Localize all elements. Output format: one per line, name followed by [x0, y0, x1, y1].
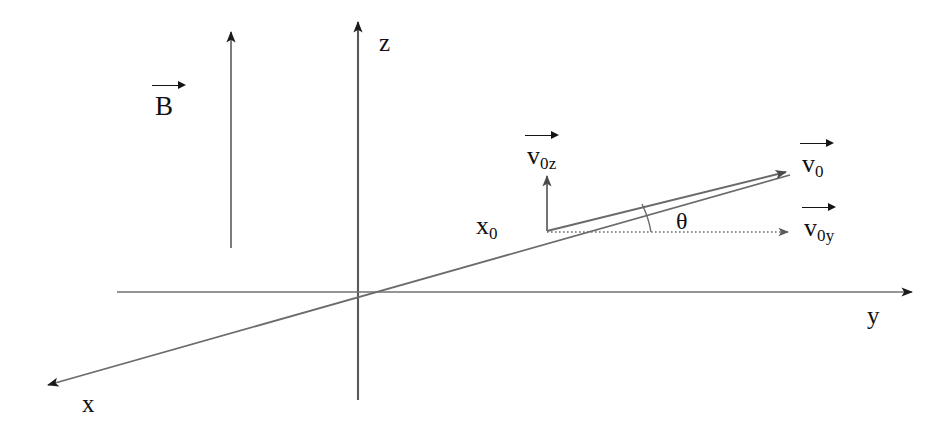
v0-subscript: 0 [815, 162, 824, 181]
angle-arc [642, 204, 651, 232]
initial-velocity-label: v0 [802, 151, 824, 180]
magnetic-field-label: B [155, 93, 173, 120]
v0z-subscript: 0z [540, 154, 556, 173]
initial-position-base: x [476, 211, 489, 240]
v0y-base: v [804, 213, 817, 242]
initial-position-label: x0 [476, 213, 498, 242]
x-axis-line [48, 175, 790, 385]
b-vector-overbar-arrowhead [178, 81, 186, 89]
y-axis-label: y [867, 303, 880, 328]
v0z-overbar-arrowhead [551, 131, 559, 139]
z-axis-label: z [379, 30, 390, 55]
v0z-overbar [525, 135, 553, 136]
v0-overbar [800, 143, 828, 144]
x-axis-label: x [82, 391, 95, 416]
b-vector-overbar [152, 85, 180, 86]
v0y-overbar [802, 207, 830, 208]
v0y-overbar-arrowhead [828, 203, 836, 211]
velocity-y-label: v0y [804, 215, 834, 244]
v0-overbar-arrowhead [826, 139, 834, 147]
angle-label: θ [676, 209, 688, 233]
v0y-subscript: 0y [817, 226, 834, 245]
physics-vector-diagram: z y x B x0 v0z v0 v0y θ [0, 0, 951, 435]
velocity-z-label: v0z [527, 143, 556, 172]
initial-velocity-arrow [547, 172, 786, 231]
v0-base: v [802, 149, 815, 178]
initial-position-subscript: 0 [489, 224, 498, 243]
v0z-base: v [527, 141, 540, 170]
